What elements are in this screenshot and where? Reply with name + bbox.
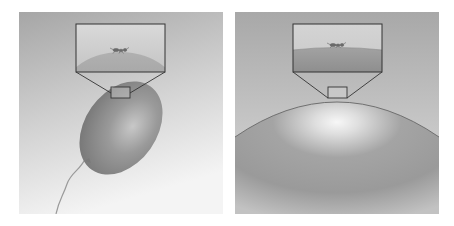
large-balloon-panel: [235, 12, 439, 214]
large-balloon-illustration: [235, 12, 439, 214]
magnified-inset: [293, 24, 382, 72]
zoom-region-marker: [328, 87, 347, 98]
zoom-region-marker: [111, 87, 130, 98]
small-balloon-panel: [19, 12, 223, 214]
small-balloon-illustration: [19, 12, 223, 214]
